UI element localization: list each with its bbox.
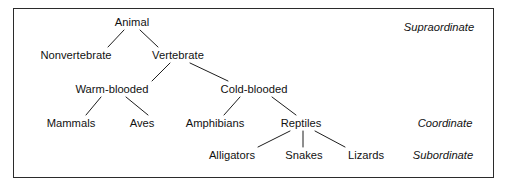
tree-node-lizards: Lizards [348, 150, 384, 161]
tree-node-reptiles: Reptiles [281, 118, 322, 129]
level-label-subordinate: Subordinate [413, 150, 473, 161]
tree-node-amphibians: Amphibians [186, 118, 245, 129]
tree-node-mammals: Mammals [47, 118, 96, 129]
level-label-supraordinate: Supraordinate [404, 22, 474, 33]
tree-node-vertebrate: Vertebrate [152, 50, 204, 61]
tree-node-snakes: Snakes [285, 150, 322, 161]
tree-node-warmblooded: Warm-blooded [75, 84, 148, 95]
level-label-coordinate: Coordinate [418, 118, 473, 129]
tree-node-nonvertebrate: Nonvertebrate [40, 50, 111, 61]
tree-node-coldblooded: Cold-blooded [221, 84, 288, 95]
hierarchy-diagram-figure: AnimalNonvertebrateVertebrateWarm-bloode… [0, 0, 508, 194]
tree-node-animal: Animal [115, 17, 149, 28]
tree-node-aves: Aves [130, 118, 155, 129]
tree-node-alligators: Alligators [209, 150, 255, 161]
